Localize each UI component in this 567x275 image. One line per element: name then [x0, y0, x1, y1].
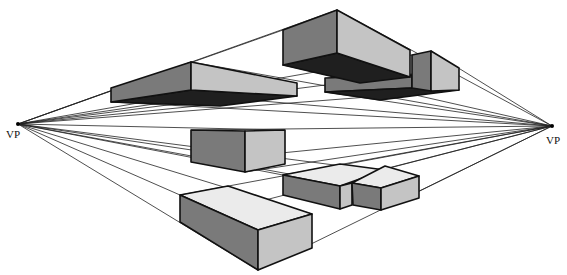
- upper-left-box: [111, 62, 297, 106]
- perspective-diagram: [0, 0, 567, 275]
- vp-label-right: VP: [546, 134, 560, 146]
- center-box: [191, 130, 285, 172]
- vp-label-left: VP: [6, 128, 20, 140]
- vanishing-point-right: [550, 124, 554, 128]
- vanishing-point-left: [16, 122, 20, 126]
- upper-right-large-box: [283, 10, 410, 83]
- upper-right-small-box: [412, 51, 459, 91]
- bottom-box: [180, 186, 312, 270]
